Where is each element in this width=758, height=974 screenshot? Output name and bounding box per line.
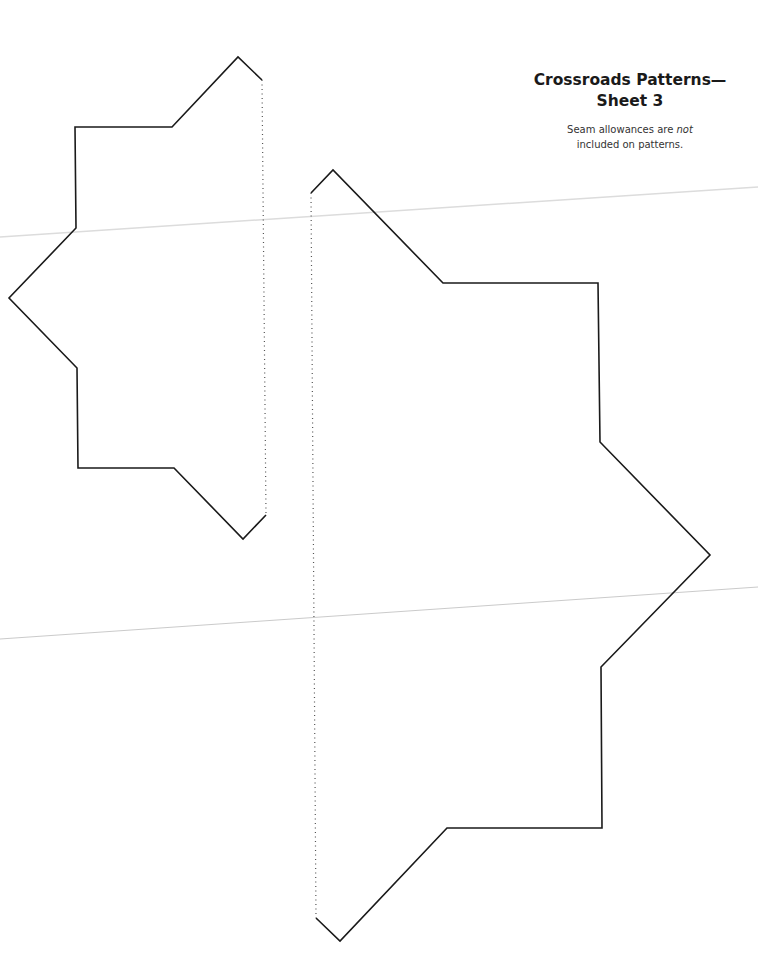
scan-artifact-line-upper <box>0 187 758 237</box>
note-emphasis: not <box>677 124 693 135</box>
scan-artifact-line-lower <box>0 587 758 639</box>
left-fold-line <box>262 80 266 515</box>
sheet-title-line1: Crossroads Patterns— <box>534 71 727 89</box>
title-block: Crossroads Patterns— Sheet 3 Seam allowa… <box>520 70 740 152</box>
sheet-title: Crossroads Patterns— Sheet 3 <box>520 70 740 112</box>
left-half-star-outline <box>9 57 266 539</box>
note-prefix: Seam allowances are <box>567 124 676 135</box>
right-fold-line <box>311 193 316 918</box>
right-half-star-outline <box>311 170 710 941</box>
note-line2: included on patterns. <box>577 139 684 150</box>
sheet-title-line2: Sheet 3 <box>597 92 664 110</box>
seam-allowance-note: Seam allowances are not included on patt… <box>520 122 740 152</box>
